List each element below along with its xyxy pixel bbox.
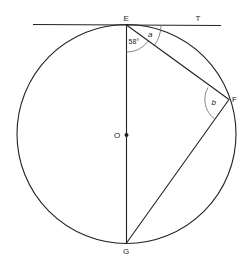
label-T: T [196, 14, 201, 23]
label-E: E [124, 14, 129, 23]
label-angle-a: a [148, 30, 153, 39]
chord-EF [127, 25, 230, 100]
chord-FG [127, 100, 230, 244]
label-angle-58: 58° [129, 38, 140, 45]
label-angle-b: b [212, 98, 217, 107]
label-O: O [114, 131, 120, 140]
circle-geometry-diagram: E T F G O 58° a b [0, 0, 248, 267]
label-F: F [232, 95, 237, 104]
label-G: G [123, 247, 129, 256]
centre-point-O [125, 133, 129, 137]
